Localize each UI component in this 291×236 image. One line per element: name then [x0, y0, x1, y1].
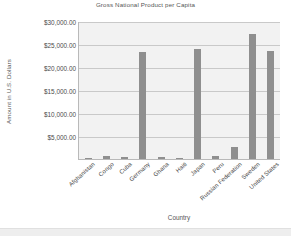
bar[interactable]	[103, 156, 110, 159]
x-axis-title: Country	[78, 214, 280, 221]
x-axis-tick-label: Peru	[211, 161, 225, 174]
bar[interactable]	[267, 51, 274, 159]
bar[interactable]	[249, 34, 256, 159]
bar-series	[79, 22, 280, 159]
x-axis-tick-label: Congo	[97, 161, 115, 178]
bottom-strip	[0, 228, 291, 236]
y-axis-tick-label: $25,000.00	[14, 42, 76, 49]
bar[interactable]	[85, 158, 92, 159]
gnp-bar-chart: Gross National Product per Capita Amount…	[0, 0, 291, 228]
x-axis-tick-label: Ghana	[152, 161, 170, 178]
bar[interactable]	[194, 49, 201, 159]
x-axis-tick-label: Haiti	[175, 161, 188, 174]
y-axis-tick-label: $30,000.00	[14, 19, 76, 26]
x-axis-tick-label: Afghanistan	[68, 161, 96, 187]
bar[interactable]	[212, 156, 219, 159]
chart-title: Gross National Product per Capita	[0, 1, 291, 8]
y-axis-tick-label: $5,000.00	[14, 134, 76, 141]
y-axis-tick-label: $20,000.00	[14, 65, 76, 72]
bar[interactable]	[176, 158, 183, 159]
y-axis-tick-label: $10,000.00	[14, 111, 76, 118]
y-axis-tick-labels: $30,000.00$25,000.00$20,000.00$15,000.00…	[10, 22, 76, 160]
bar[interactable]	[121, 157, 128, 159]
bar[interactable]	[231, 147, 238, 159]
plot-area	[78, 22, 280, 160]
x-axis-tick-labels: AfghanistanCongoCubaGermanyGhanaHaitiJap…	[78, 161, 280, 213]
bar[interactable]	[158, 157, 165, 159]
x-axis-tick-label: Cuba	[118, 161, 133, 175]
x-axis-tick-label: Japan	[190, 161, 207, 177]
y-axis-tick-label: $15,000.00	[14, 88, 76, 95]
bar[interactable]	[139, 52, 146, 159]
